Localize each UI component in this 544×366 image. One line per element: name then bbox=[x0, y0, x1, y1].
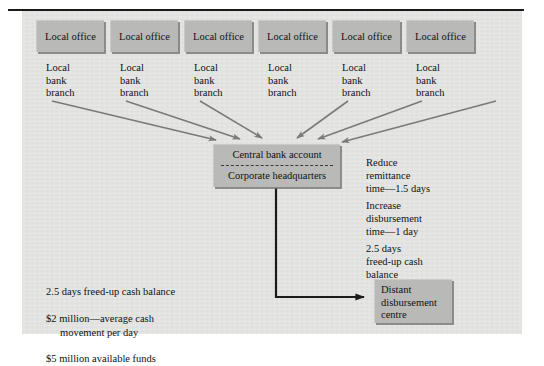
local-bank-branch-label-5: Local bank branch bbox=[342, 62, 371, 100]
local-bank-branch-label-2: Local bank branch bbox=[120, 62, 149, 100]
local-office-label-4: Local office bbox=[267, 31, 318, 43]
distant-disbursement-centre-box[interactable]: Distant disbursement centre bbox=[374, 279, 452, 323]
central-box-divider bbox=[221, 165, 333, 166]
local-office-box-5[interactable]: Local office bbox=[332, 20, 400, 52]
local-office-box-1[interactable]: Local office bbox=[36, 20, 104, 52]
central-bank-account-box[interactable]: Central bank account Corporate headquart… bbox=[213, 144, 340, 187]
local-office-label-1: Local office bbox=[45, 31, 96, 43]
local-office-label-2: Local office bbox=[119, 31, 170, 43]
local-office-box-6[interactable]: Local office bbox=[406, 20, 474, 52]
note-freed-up-cash-balance: 2.5 days freed-up cash balance bbox=[366, 243, 423, 281]
local-office-label-6: Local office bbox=[415, 31, 466, 43]
bottom-note-line-3: movement per day bbox=[46, 326, 175, 339]
note-increase-disbursement-time: Increase disbursement time—1 day bbox=[366, 200, 422, 238]
corporate-headquarters-label: Corporate headquarters bbox=[214, 170, 340, 181]
bottom-note-line-2: $2 million—average cash bbox=[46, 313, 154, 324]
bottom-summary-note: 2.5 days freed-up cash balance $2 millio… bbox=[46, 272, 175, 366]
note-reduce-remittance-time: Reduce remittance time—1.5 days bbox=[366, 157, 430, 195]
local-bank-branch-label-6: Local bank branch bbox=[416, 62, 445, 100]
bottom-note-line-1: 2.5 days freed-up cash balance bbox=[46, 286, 175, 297]
central-bank-account-label: Central bank account bbox=[214, 149, 340, 160]
local-bank-branch-label-3: Local bank branch bbox=[194, 62, 223, 100]
local-office-box-4[interactable]: Local office bbox=[258, 20, 326, 52]
local-bank-branch-label-4: Local bank branch bbox=[268, 62, 297, 100]
bottom-note-line-4: $5 million available funds bbox=[46, 353, 156, 364]
local-office-label-3: Local office bbox=[193, 31, 244, 43]
local-office-box-2[interactable]: Local office bbox=[110, 20, 178, 52]
local-bank-branch-label-1: Local bank branch bbox=[46, 62, 75, 100]
local-office-box-3[interactable]: Local office bbox=[184, 20, 252, 52]
local-office-label-5: Local office bbox=[341, 31, 392, 43]
